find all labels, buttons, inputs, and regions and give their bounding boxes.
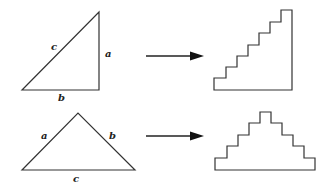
pyramid-staircase	[215, 112, 315, 170]
label-side-b: b	[58, 92, 65, 103]
arrow-right-icon	[146, 52, 204, 61]
right-triangle	[22, 12, 99, 90]
label-side-a: a	[41, 130, 47, 141]
label-base-c: c	[73, 173, 79, 184]
ascending-staircase	[214, 10, 292, 90]
triangle-staircase-diagram: c a b a b c	[0, 0, 334, 187]
label-side-a: a	[105, 48, 111, 59]
label-side-b: b	[109, 130, 116, 141]
arrow-right-icon	[146, 132, 204, 141]
isosceles-triangle-row: a b c	[22, 112, 315, 184]
label-hypotenuse-c: c	[51, 41, 57, 52]
isosceles-triangle	[22, 113, 135, 170]
right-triangle-row: c a b	[22, 10, 292, 103]
